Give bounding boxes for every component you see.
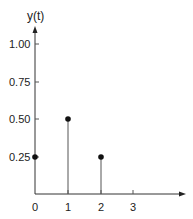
y-tick-label: 1.00 xyxy=(9,39,30,50)
y-axis-arrow-icon xyxy=(33,26,38,33)
x-tick-label: 1 xyxy=(65,202,71,213)
point-1 xyxy=(65,116,71,122)
x-tick-label: 2 xyxy=(98,202,104,213)
stems xyxy=(68,119,101,194)
x-axis-arrow-icon xyxy=(179,192,186,197)
stem-plot xyxy=(0,0,193,219)
y-ticks xyxy=(35,44,39,157)
axes xyxy=(35,30,180,194)
x-tick-label: 0 xyxy=(32,202,38,213)
y-tick-label: 0.25 xyxy=(9,152,30,163)
y-tick-label: 0.50 xyxy=(9,114,30,125)
y-tick-label: 0.75 xyxy=(9,77,30,88)
x-tick-label: 3 xyxy=(130,202,136,213)
point-2 xyxy=(98,154,104,160)
y-axis-label: y(t) xyxy=(27,11,44,22)
point-0 xyxy=(32,154,38,160)
